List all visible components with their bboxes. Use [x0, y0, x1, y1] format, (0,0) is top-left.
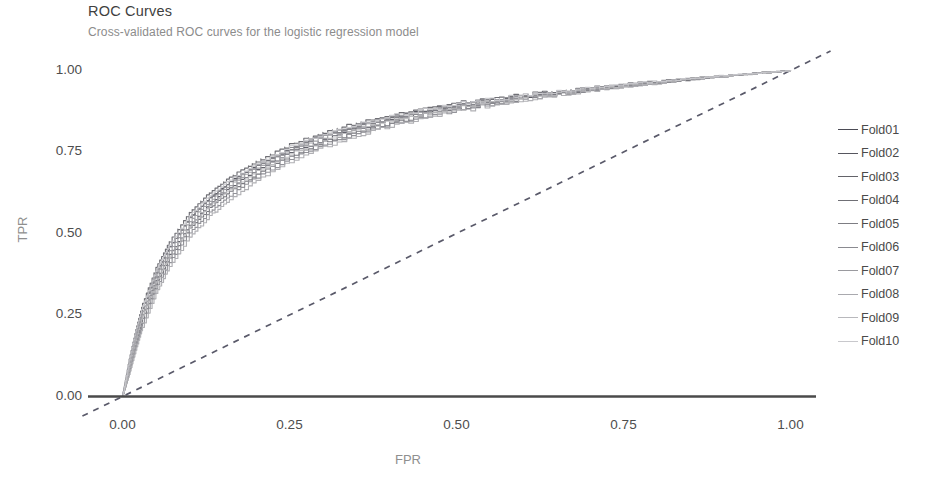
plot-svg [0, 0, 932, 487]
legend-label: Fold03 [861, 171, 899, 184]
legend-item-fold01[interactable]: Fold01 [838, 118, 932, 142]
y-tick-label: 0.25 [34, 306, 82, 321]
legend-label: Fold10 [861, 335, 899, 348]
legend-label: Fold02 [861, 147, 899, 160]
legend-label: Fold09 [861, 312, 899, 325]
legend-item-fold08[interactable]: Fold08 [838, 283, 932, 307]
legend-swatch-icon [838, 341, 858, 342]
legend-label: Fold08 [861, 288, 899, 301]
x-tick-label: 0.25 [260, 417, 320, 432]
x-tick-label: 1.00 [761, 417, 821, 432]
legend-swatch-icon [838, 317, 858, 318]
legend-item-fold05[interactable]: Fold05 [838, 212, 932, 236]
legend-item-fold07[interactable]: Fold07 [838, 259, 932, 283]
roc-chart: ROC Curves Cross-validated ROC curves fo… [0, 0, 932, 487]
legend-swatch-icon [838, 200, 858, 201]
legend-swatch-icon [838, 294, 858, 295]
y-tick-label: 0.50 [34, 225, 82, 240]
legend-item-fold10[interactable]: Fold10 [838, 330, 932, 354]
plot-area [0, 0, 932, 487]
legend-label: Fold01 [861, 124, 899, 137]
legend-item-fold06[interactable]: Fold06 [838, 236, 932, 260]
legend-swatch-icon [838, 129, 858, 130]
legend-swatch-icon [838, 247, 858, 248]
legend-swatch-icon [838, 270, 858, 271]
legend-label: Fold05 [861, 218, 899, 231]
x-tick-label: 0.00 [93, 417, 153, 432]
legend-item-fold02[interactable]: Fold02 [838, 142, 932, 166]
legend-swatch-icon [838, 153, 858, 154]
legend-item-fold03[interactable]: Fold03 [838, 165, 932, 189]
y-tick-label: 0.00 [34, 388, 82, 403]
y-tick-label: 1.00 [34, 62, 82, 77]
legend-item-fold04[interactable]: Fold04 [838, 189, 932, 213]
legend-swatch-icon [838, 223, 858, 224]
x-tick-label: 0.50 [427, 417, 487, 432]
y-axis-title: TPR [15, 190, 30, 270]
legend-item-fold09[interactable]: Fold09 [838, 306, 932, 330]
legend-label: Fold04 [861, 194, 899, 207]
x-tick-label: 0.75 [594, 417, 654, 432]
legend-label: Fold07 [861, 265, 899, 278]
legend-swatch-icon [838, 176, 858, 177]
y-tick-label: 0.75 [34, 143, 82, 158]
legend: Fold01Fold02Fold03Fold04Fold05Fold06Fold… [838, 118, 932, 353]
legend-label: Fold06 [861, 241, 899, 254]
x-axis-title: FPR [0, 452, 816, 467]
